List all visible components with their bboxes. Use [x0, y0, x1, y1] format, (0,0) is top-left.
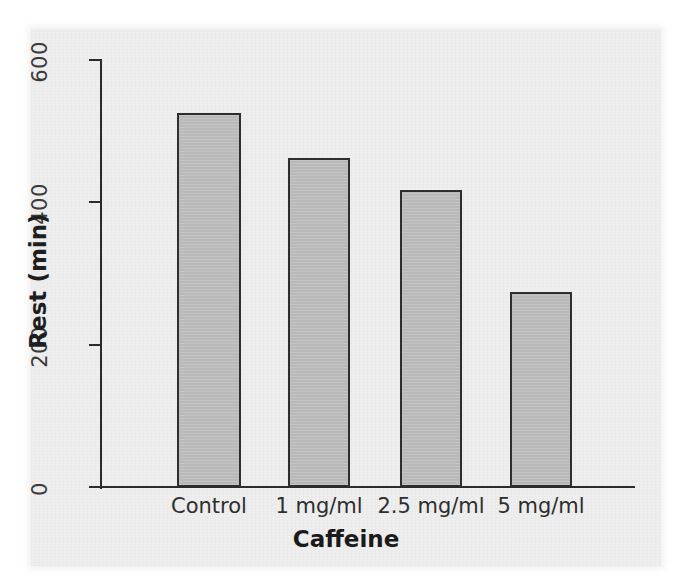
y-axis-line: [100, 59, 102, 489]
y-tick-200: [89, 344, 101, 346]
bar-5mgml: [510, 292, 572, 487]
x-axis-title: Caffeine: [246, 526, 446, 552]
figure-container: 600 400 200 0 Rest (min) Control 1 mg/ml…: [0, 0, 692, 587]
y-tick-label-0: 0: [28, 454, 52, 524]
y-tick-400: [89, 201, 101, 203]
bar-control: [177, 113, 241, 487]
bar-texture: [512, 294, 570, 485]
bar-2-5mgml: [400, 190, 462, 487]
bar-1mgml: [288, 158, 350, 487]
x-tick-label-5mgml: 5 mg/ml: [456, 494, 626, 518]
y-tick-label-600: 600: [28, 27, 52, 97]
y-tick-0: [89, 486, 101, 488]
bar-chart-plot: 600 400 200 0 Rest (min) Control 1 mg/ml…: [0, 0, 692, 587]
y-axis-title: Rest (min): [25, 181, 51, 381]
bar-texture: [402, 192, 460, 485]
bar-texture: [290, 160, 348, 485]
bar-texture: [179, 115, 239, 485]
y-tick-600: [89, 59, 101, 61]
